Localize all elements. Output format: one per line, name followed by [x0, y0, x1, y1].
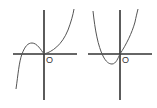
- function-graphs-figure: O O: [0, 0, 157, 108]
- origin-label: O: [122, 55, 129, 65]
- parabola-curve: [93, 9, 138, 64]
- cubic-graph: O: [13, 9, 77, 100]
- parabola-graph: O: [88, 9, 152, 100]
- cubic-curve: [16, 9, 74, 89]
- origin-label: O: [46, 55, 53, 65]
